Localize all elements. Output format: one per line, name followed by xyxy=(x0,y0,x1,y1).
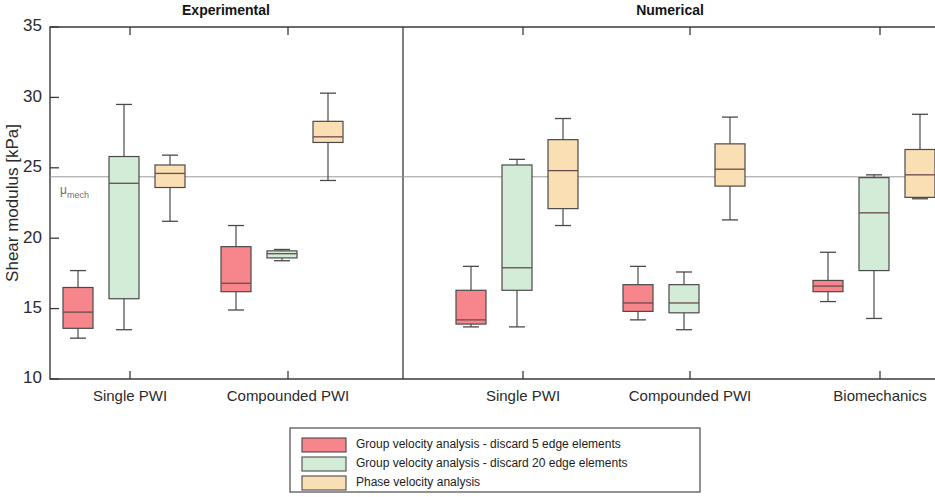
box-body xyxy=(502,165,532,290)
box-body xyxy=(715,144,745,186)
box-plot-box xyxy=(715,117,745,220)
box-plot-box xyxy=(905,114,935,198)
y-tick-label: 35 xyxy=(23,16,42,35)
legend-swatch xyxy=(302,438,346,452)
box-body xyxy=(456,290,486,324)
box-plot-box xyxy=(669,272,699,330)
box-body xyxy=(267,251,297,258)
box-body xyxy=(221,247,251,292)
box-plot-box xyxy=(859,175,889,319)
legend-label: Group velocity analysis - discard 5 edge… xyxy=(356,437,621,451)
box-body xyxy=(155,165,185,188)
box-body xyxy=(63,287,93,328)
mu-subscript: mech xyxy=(67,190,89,200)
box-plot-box xyxy=(221,226,251,310)
y-tick-label: 15 xyxy=(23,298,42,317)
y-tick-label: 25 xyxy=(23,157,42,176)
y-axis: 101520253035 xyxy=(23,16,59,387)
x-tick-label: Single PWI xyxy=(486,387,560,404)
box-plot-box xyxy=(548,119,578,226)
mu-mech-label: μmech xyxy=(60,183,89,200)
legend-swatch xyxy=(302,457,346,471)
box-plot-box xyxy=(623,266,653,320)
box-body xyxy=(623,285,653,312)
box-plot-box xyxy=(456,266,486,327)
x-tick-label: Compounded PWI xyxy=(227,387,350,404)
box-plot-box xyxy=(155,155,185,221)
y-axis-title: Shear modulus [kPa] xyxy=(3,124,22,282)
panel-title: Numerical xyxy=(636,2,704,18)
x-tick-label: Biomechanics xyxy=(833,387,926,404)
legend-label: Group velocity analysis - discard 20 edg… xyxy=(356,456,627,470)
y-tick-label: 10 xyxy=(23,368,42,387)
y-tick-label: 30 xyxy=(23,87,42,106)
box-plot-box xyxy=(502,159,532,327)
legend: Group velocity analysis - discard 5 edge… xyxy=(290,428,700,492)
box-plot-box xyxy=(63,271,93,339)
box-body xyxy=(548,140,578,209)
box-body xyxy=(905,149,935,197)
box-body xyxy=(669,285,699,313)
box-body xyxy=(109,157,139,299)
shear-modulus-boxplot: μmech 101520253035 Single PWICompounded … xyxy=(0,0,935,497)
box-body xyxy=(859,178,889,271)
box-plot-box xyxy=(109,104,139,329)
x-tick-label: Compounded PWI xyxy=(629,387,752,404)
legend-label: Phase velocity analysis xyxy=(356,475,480,489)
panel-title: Experimental xyxy=(182,2,270,18)
boxplot-figure: μmech 101520253035 Single PWICompounded … xyxy=(0,0,935,497)
legend-swatch xyxy=(302,476,346,490)
box-plot-box xyxy=(267,249,297,260)
box-plot-series xyxy=(63,93,935,338)
box-plot-box xyxy=(313,93,343,180)
x-tick-label: Single PWI xyxy=(93,387,167,404)
box-plot-box xyxy=(813,252,843,301)
y-tick-label: 20 xyxy=(23,228,42,247)
axes-frame xyxy=(50,27,935,379)
box-body xyxy=(313,121,343,142)
plot-border xyxy=(50,27,935,379)
panel-titles: ExperimentalNumerical xyxy=(182,2,704,18)
